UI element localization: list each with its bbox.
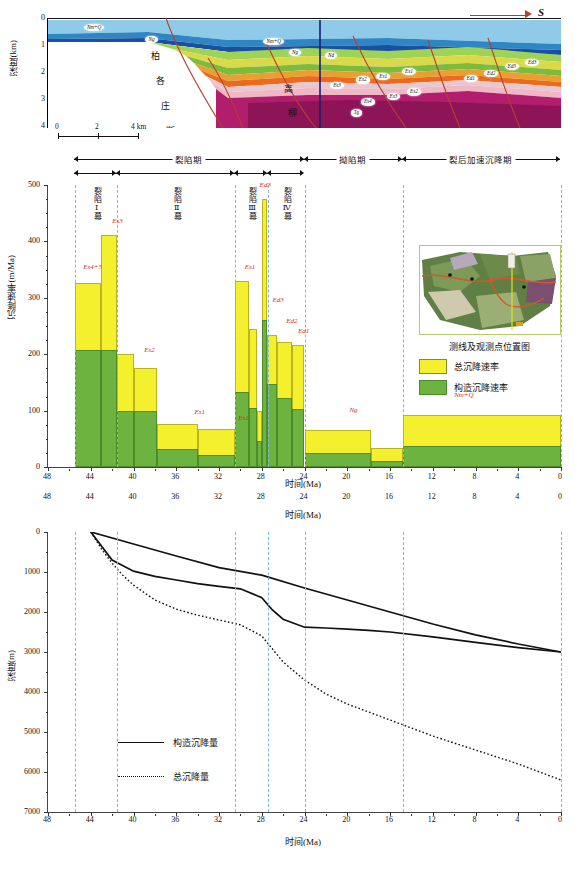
- legend-item-tectonic: 构造沉降速率: [419, 380, 559, 395]
- y-tick: [46, 792, 49, 793]
- y-tick-label: 7000: [24, 807, 40, 816]
- bracket-label: 裂陷期: [172, 153, 205, 165]
- y-tick: [44, 612, 48, 613]
- cross-section-y-axis: 0 1 2 3 4: [22, 18, 47, 130]
- unit-bubble: Es2: [356, 76, 370, 83]
- x-tick-label: 0: [558, 492, 562, 501]
- curve-legend-total: 总沉降量: [118, 770, 209, 783]
- bracket-arrow-left: [74, 156, 78, 162]
- y-tick-label: 6000: [24, 767, 40, 776]
- y-tick: [44, 732, 48, 733]
- y-tick-label: 100: [28, 406, 40, 415]
- phase-divider: [305, 532, 306, 812]
- unit-bubble: Es1: [402, 68, 416, 75]
- legend-label-tectonic-amount: 构造沉降量: [173, 736, 218, 749]
- y-tick-label: 0: [36, 527, 40, 536]
- curve-chart-area: 构造沉降量 总沉降量: [47, 532, 561, 813]
- x-tick: [561, 467, 562, 471]
- bracket-arrow-right: [556, 156, 560, 162]
- bar-y-tick-labels: 0100200300400500: [13, 185, 43, 467]
- ytick-label: 2: [41, 67, 45, 76]
- y-tick: [46, 752, 49, 753]
- bracket-arrow-left: [304, 156, 308, 162]
- x-tick-label: 0: [558, 815, 562, 824]
- y-tick-label: 0: [36, 462, 40, 471]
- x-tick-label: 4: [515, 472, 519, 481]
- bracket-arrow-left: [116, 170, 120, 176]
- y-tick: [44, 652, 48, 653]
- subphase-label: 裂陷Ⅰ幕: [91, 187, 102, 220]
- x-tick-label: 12: [428, 815, 436, 824]
- panel-subsidence-rate: 裂陷期拗陷期裂后加速沉降期 沉降速率(m/Ma) Es4+5Es3Es2Es1E…: [0, 150, 575, 490]
- phase-divider: [403, 532, 404, 812]
- fault-char: 各: [156, 74, 165, 87]
- fault-char: 柏: [151, 49, 160, 62]
- y-tick: [46, 592, 49, 593]
- x-tick-label: 44: [86, 492, 94, 501]
- x-tick-label: 20: [342, 492, 350, 501]
- bracket-arrow-left: [74, 170, 78, 176]
- x-tick-label: 36: [171, 492, 179, 501]
- y-tick: [44, 772, 48, 773]
- y-tick-label: 200: [28, 349, 40, 358]
- panel-cross-section: S 深度(km) 0 1 2 3 4: [0, 0, 575, 150]
- x-tick-label: 8: [473, 472, 477, 481]
- y-tick-label: 1000: [24, 567, 40, 576]
- x-tick-label: 20: [342, 472, 350, 481]
- x-tick-label: 44: [86, 815, 94, 824]
- bar-x-axis-title: 时间(Ma): [285, 477, 321, 490]
- phase-bracket-row: 裂陷期拗陷期裂后加速沉降期: [47, 152, 560, 166]
- phase-divider: [75, 532, 76, 812]
- unit-bubble: Nm+Q: [84, 24, 104, 31]
- fault-char: 柳: [288, 106, 297, 119]
- x-tick-label: 12: [428, 492, 436, 501]
- scale-tick-label: 2: [95, 122, 99, 131]
- legend-swatch-total: [419, 359, 447, 374]
- x-tick-label: 16: [385, 492, 393, 501]
- legend-label-total: 总沉降速率: [454, 360, 499, 373]
- legend-label-total-amount: 总沉降量: [173, 770, 209, 783]
- bracket-arrow-left: [402, 156, 406, 162]
- y-tick-label: 500: [28, 180, 40, 189]
- scale-bar: 0 2 4 km: [55, 126, 165, 144]
- bracket-label: 裂后加速沉降期: [446, 153, 515, 165]
- x-tick-label: 16: [385, 815, 393, 824]
- ytick-label: 0: [41, 13, 45, 22]
- bracket-arrow-right: [300, 170, 304, 176]
- bracket-line: [74, 173, 117, 174]
- unit-bubble: Es2: [407, 88, 421, 95]
- x-tick-label: 40: [129, 492, 137, 501]
- bracket-line: [116, 173, 234, 174]
- subphase-label: 裂陷Ⅳ幕: [281, 187, 292, 220]
- x-tick-label: 8: [473, 492, 477, 501]
- unit-bubble: Ed3: [525, 59, 539, 66]
- unit-bubble: Es3: [330, 82, 344, 89]
- panel-subsidence-curves: 48444036322824201612840 时间(Ma) 深度(m) 构造沉…: [0, 490, 575, 875]
- legend-line-solid: [118, 742, 164, 743]
- curve-y-tick-labels: 01000200030004000500060007000: [10, 532, 43, 812]
- x-tick-label: 40: [129, 815, 137, 824]
- y-tick-label: 4000: [24, 687, 40, 696]
- x-tick-label: 28: [257, 472, 265, 481]
- fault-label-baigezhuang: 柏 各 庄 断 层: [151, 49, 160, 114]
- y-tick-label: 5000: [24, 727, 40, 736]
- y-tick-label: 300: [28, 293, 40, 302]
- y-tick-label: 3000: [24, 647, 40, 656]
- x-tick-label: 20: [342, 815, 350, 824]
- x-tick-label: 32: [214, 815, 222, 824]
- curve-x-axis-title-bottom: 时间(Ma): [285, 835, 321, 848]
- subphase-bracket-row: [47, 167, 560, 179]
- y-tick: [46, 552, 49, 553]
- x-tick-label: 16: [385, 472, 393, 481]
- bracket-label: 拗陷期: [336, 153, 369, 165]
- phase-divider: [268, 532, 269, 812]
- x-tick-label: 28: [257, 815, 265, 824]
- x-tick-label: 32: [214, 492, 222, 501]
- x-tick-label: 36: [171, 472, 179, 481]
- x-tick-label: 28: [257, 492, 265, 501]
- scale-tick-label: 0: [55, 122, 59, 131]
- y-tick: [46, 632, 49, 633]
- x-tick-label: 12: [428, 472, 436, 481]
- fault-label-gaoliu: 高 柳 断 层: [284, 82, 293, 128]
- ytick-label: 3: [41, 94, 45, 103]
